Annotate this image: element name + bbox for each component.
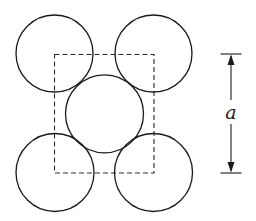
arrow-down-icon xyxy=(228,162,235,173)
arrow-up-icon xyxy=(228,55,235,66)
atom-corner-top-right xyxy=(115,15,192,92)
dimension-label-a: a xyxy=(222,100,240,124)
bcc-unit-cell-diagram xyxy=(0,0,256,221)
unit-cell-boundary xyxy=(55,55,155,174)
